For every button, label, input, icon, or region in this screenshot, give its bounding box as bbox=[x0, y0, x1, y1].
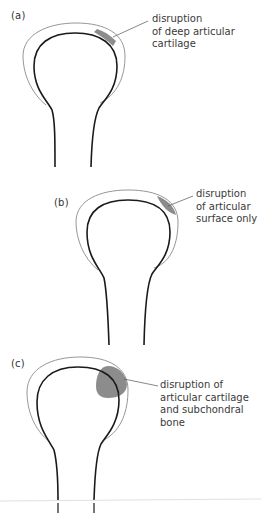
leader-line-b bbox=[168, 196, 193, 206]
callout-text-c: disruption of articular cartilage and su… bbox=[160, 379, 249, 429]
panel-a bbox=[23, 21, 148, 167]
baseline-rule bbox=[0, 499, 261, 501]
panel-c bbox=[27, 357, 158, 513]
panel-label-c: (c) bbox=[11, 358, 25, 369]
callout-text-a: disruption of deep articular cartilage bbox=[152, 13, 235, 51]
cartilage-lesion-diagram bbox=[0, 0, 261, 524]
leader-line-c bbox=[124, 379, 158, 386]
panel-label-b: (b) bbox=[54, 197, 69, 208]
callout-text-b: disruption of articular surface only bbox=[196, 188, 257, 226]
bone-outline-b bbox=[87, 200, 170, 345]
bone-outline-a bbox=[34, 33, 117, 167]
panel-b bbox=[76, 190, 193, 345]
leader-line-a bbox=[113, 21, 148, 37]
panel-label-a: (a) bbox=[11, 10, 26, 21]
